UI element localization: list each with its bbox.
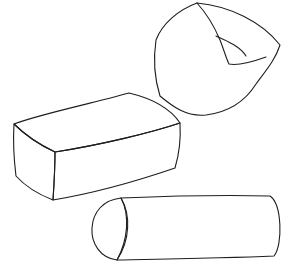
round-pouf <box>155 3 280 115</box>
cylinder-end-cap <box>92 198 128 260</box>
rectangular-block <box>14 93 181 200</box>
block-left-face <box>14 124 55 200</box>
illustration-canvas <box>0 0 296 269</box>
bolster-cylinder <box>92 196 280 260</box>
pouf-seam <box>197 3 266 65</box>
cylinder-body <box>117 196 280 260</box>
block-front-face <box>53 123 180 200</box>
pouf-fold <box>216 36 246 56</box>
